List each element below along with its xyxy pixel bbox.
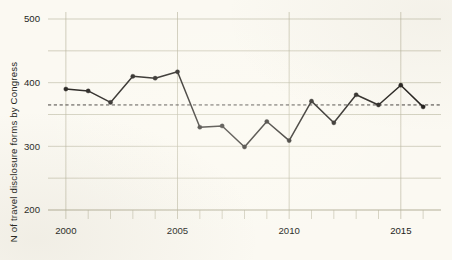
data-point-marker	[153, 76, 157, 80]
data-point-marker	[86, 89, 90, 93]
data-point-marker	[376, 103, 380, 107]
line-chart-plot: 2003004005002000200520102015	[0, 0, 452, 260]
data-point-marker	[332, 121, 336, 125]
y-tick-label: 300	[24, 141, 40, 152]
x-tick-label: 2000	[55, 225, 76, 236]
data-point-marker	[354, 93, 358, 97]
data-point-marker	[64, 87, 68, 91]
data-point-marker	[421, 105, 425, 109]
axis-ticks	[48, 210, 441, 219]
data-point-marker	[287, 139, 291, 143]
chart-figure: N of travel disclosure forms by Congress…	[0, 0, 452, 260]
data-point-marker	[198, 125, 202, 129]
data-point-marker	[399, 83, 403, 87]
x-tick-label: 2005	[167, 225, 188, 236]
data-point-marker	[309, 99, 313, 103]
data-series-line	[66, 72, 423, 147]
data-point-marker	[242, 145, 246, 149]
x-tick-label: 2010	[278, 225, 299, 236]
data-point-marker	[265, 119, 269, 123]
tick-labels: 2003004005002000200520102015	[24, 13, 411, 236]
data-point-marker	[175, 70, 179, 74]
grid-lines	[48, 12, 441, 219]
x-tick-label: 2015	[390, 225, 411, 236]
data-point-marker	[131, 74, 135, 78]
y-tick-label: 500	[24, 13, 40, 24]
data-markers	[64, 70, 425, 149]
y-tick-label: 400	[24, 77, 40, 88]
data-point-marker	[108, 100, 112, 104]
data-line	[66, 72, 423, 147]
y-tick-label: 200	[24, 204, 40, 215]
data-point-marker	[220, 124, 224, 128]
